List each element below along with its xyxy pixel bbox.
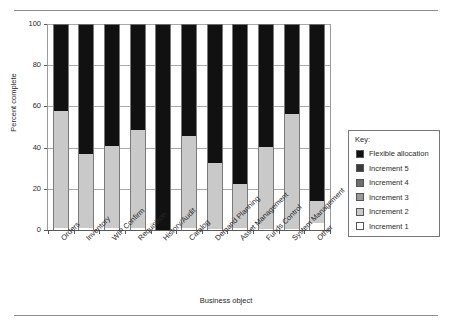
bar-history-audit[interactable]: [155, 24, 171, 230]
legend-item-label: Increment 2: [369, 207, 409, 216]
chart-figure: Percent complete 020406080100 Business o…: [0, 0, 452, 329]
bar-segment: [78, 154, 94, 228]
bar-segment: [232, 24, 248, 184]
bar-segment: [284, 24, 300, 114]
bar-segment: [207, 163, 223, 229]
y-axis: Percent complete 020406080100: [0, 0, 48, 329]
top-divider-rule: [14, 10, 438, 11]
bar-segment: [258, 24, 274, 147]
bar-segment: [130, 24, 146, 130]
bar-segment: [53, 24, 69, 111]
legend-item[interactable]: Flexible allocation: [356, 147, 429, 160]
bar-other[interactable]: [309, 24, 325, 230]
y-tick-label: 60: [33, 102, 41, 110]
legend-swatch-icon: [356, 179, 364, 187]
legend-item[interactable]: Increment 1: [356, 220, 409, 233]
bar-segment: [53, 111, 69, 228]
x-axis-title: Business object: [0, 296, 452, 305]
plot-area: [48, 24, 330, 230]
bar-catalog[interactable]: [181, 24, 197, 230]
bar-demand-planning[interactable]: [207, 24, 223, 230]
bar-requisition[interactable]: [130, 24, 146, 230]
legend-item[interactable]: Increment 3: [356, 191, 409, 204]
bar-wip-confirm[interactable]: [104, 24, 120, 230]
legend-item[interactable]: Increment 2: [356, 205, 409, 218]
bar-asset-management[interactable]: [232, 24, 248, 230]
legend-swatch-icon: [356, 193, 364, 201]
bottom-divider-rule: [14, 315, 438, 316]
legend-swatch-icon: [356, 222, 364, 230]
legend-item-label: Increment 5: [369, 164, 409, 173]
legend-swatch-icon: [356, 208, 364, 216]
bar-segment: [78, 24, 94, 154]
bar-segment: [181, 24, 197, 136]
bar-segment: [309, 24, 325, 201]
y-tick-label: 100: [28, 20, 41, 28]
y-tick-label: 0: [37, 226, 41, 234]
chart-legend: Key: Flexible allocationIncrement 5Incre…: [348, 130, 440, 237]
bar-inventory[interactable]: [78, 24, 94, 230]
legend-item-label: Flexible allocation: [369, 149, 429, 158]
legend-item-label: Increment 4: [369, 178, 409, 187]
y-tick-label: 80: [33, 61, 41, 69]
y-tick-label: 40: [33, 144, 41, 152]
bar-segment: [155, 24, 171, 230]
legend-swatch-icon: [356, 164, 364, 172]
bar-segment: [104, 24, 120, 146]
legend-item[interactable]: Increment 5: [356, 162, 409, 175]
bar-segment: [207, 24, 223, 163]
bar-orders[interactable]: [53, 24, 69, 230]
y-axis-title: Percent complete: [9, 43, 18, 163]
x-tick-mark: [48, 230, 49, 234]
legend-item[interactable]: Increment 4: [356, 176, 409, 189]
legend-title: Key:: [355, 135, 370, 144]
legend-swatch-icon: [356, 150, 364, 158]
legend-item-label: Increment 1: [369, 222, 409, 231]
legend-item-label: Increment 3: [369, 193, 409, 202]
y-tick-label: 20: [33, 185, 41, 193]
plot-frame-left: [47, 24, 48, 230]
